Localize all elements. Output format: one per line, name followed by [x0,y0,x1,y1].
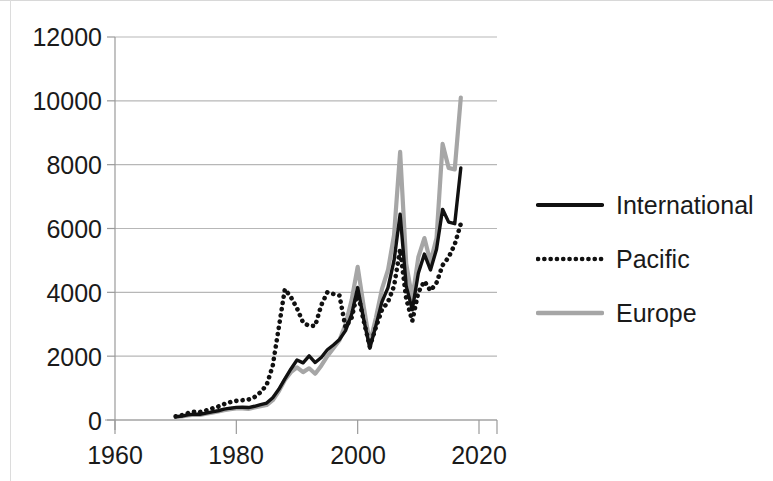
chart-legend: International Pacific Europe [536,178,768,340]
y-axis-tick-label-2000: 2000 [6,345,102,370]
x-axis-tick-label-1960: 1960 [65,443,165,468]
legend-item-europe: Europe [536,286,768,340]
y-axis-tick-label-0: 0 [6,409,102,434]
legend-swatch-svg [536,306,604,320]
chart-page: 12000 10000 8000 6000 4000 2000 0 1960 1… [0,0,773,481]
legend-swatch-svg [536,252,604,266]
y-axis-tick-label-10000: 10000 [6,89,102,114]
series-line-europe [176,98,461,417]
legend-label-europe: Europe [616,301,697,326]
y-axis-tick-label-12000: 12000 [6,25,102,50]
legend-swatch-europe-line-icon [536,306,604,320]
y-axis-tick-label-6000: 6000 [6,217,102,242]
x-axis-tick-label-2020: 2020 [429,443,529,468]
y-axis-tick-label-8000: 8000 [6,153,102,178]
legend-label-international: International [616,193,754,218]
legend-label-pacific: Pacific [616,247,690,272]
legend-item-pacific: Pacific [536,232,768,286]
x-axis-tick-label-2000: 2000 [308,443,408,468]
legend-swatch-pacific-line-icon [536,252,604,266]
data-series-group [176,98,461,417]
y-axis-tick-label-4000: 4000 [6,281,102,306]
line-chart: 12000 10000 8000 6000 4000 2000 0 1960 1… [0,0,773,481]
legend-swatch-international-line-icon [536,198,604,212]
legend-item-international: International [536,178,768,232]
x-axis-tick-label-1980: 1980 [186,443,286,468]
legend-swatch-svg [536,198,604,212]
